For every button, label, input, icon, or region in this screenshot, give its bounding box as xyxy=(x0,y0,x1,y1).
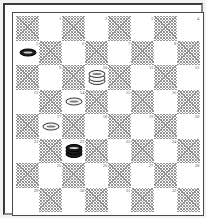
checker-piece-dark-man-sq5[interactable] xyxy=(19,47,36,58)
checker-piece-light-man-sq17[interactable] xyxy=(42,121,59,132)
board-square-30[interactable]: 30 xyxy=(62,188,85,213)
board-square-16[interactable]: 16 xyxy=(154,90,177,115)
board-square-29[interactable]: 29 xyxy=(16,188,39,213)
square-number-label: 31 xyxy=(126,188,130,194)
board-square-blank-r6c6[interactable] xyxy=(131,139,154,164)
board-square-7[interactable]: 7 xyxy=(108,41,131,66)
board-square-blank-r8c2[interactable] xyxy=(39,188,62,213)
square-number-label: 9 xyxy=(59,65,61,71)
square-number-label: 21 xyxy=(34,139,38,145)
square-number-label: 29 xyxy=(34,188,38,194)
board-square-blank-r7c1[interactable] xyxy=(16,163,39,188)
board-square-1[interactable]: 1 xyxy=(39,16,62,41)
square-number-label: 2 xyxy=(105,16,107,22)
checker-disc-icon xyxy=(19,49,36,57)
board-square-blank-r4c2[interactable] xyxy=(39,90,62,115)
board-square-26[interactable]: 26 xyxy=(85,163,108,188)
checkers-diagram-root: 1234567891011121314151617181920212223242… xyxy=(0,0,206,218)
square-number-label: 20 xyxy=(195,114,199,120)
board-square-31[interactable]: 31 xyxy=(108,188,131,213)
square-number-label: 1 xyxy=(59,16,61,22)
square-number-label: 7 xyxy=(128,41,130,47)
board-square-11[interactable]: 11 xyxy=(131,65,154,90)
board-square-blank-r1c7[interactable] xyxy=(154,16,177,41)
board-square-blank-r5c1[interactable] xyxy=(16,114,39,139)
board-square-13[interactable]: 13 xyxy=(16,90,39,115)
board-square-23[interactable]: 23 xyxy=(108,139,131,164)
checker-disc-icon xyxy=(88,70,105,78)
board-square-blank-r6c8[interactable] xyxy=(177,139,200,164)
board-square-20[interactable]: 20 xyxy=(177,114,200,139)
square-number-label: 5 xyxy=(36,41,38,47)
board-square-blank-r4c8[interactable] xyxy=(177,90,200,115)
square-number-label: 25 xyxy=(57,163,61,169)
checker-disc-icon xyxy=(65,144,82,152)
board-square-blank-r4c6[interactable] xyxy=(131,90,154,115)
board-square-blank-r7c7[interactable] xyxy=(154,163,177,188)
board-square-blank-r6c4[interactable] xyxy=(85,139,108,164)
square-number-label: 13 xyxy=(34,90,38,96)
board-square-18[interactable]: 18 xyxy=(85,114,108,139)
checkers-board-grid[interactable]: 1234567891011121314151617181920212223242… xyxy=(16,16,200,212)
board-square-blank-r8c8[interactable] xyxy=(177,188,200,213)
board-square-25[interactable]: 25 xyxy=(39,163,62,188)
board-square-19[interactable]: 19 xyxy=(131,114,154,139)
board-square-blank-r7c3[interactable] xyxy=(62,163,85,188)
board-square-blank-r2c6[interactable] xyxy=(131,41,154,66)
checker-piece-dark-king-sq22[interactable] xyxy=(65,144,82,158)
board-square-blank-r2c4[interactable] xyxy=(85,41,108,66)
board-square-2[interactable]: 2 xyxy=(85,16,108,41)
board-square-9[interactable]: 9 xyxy=(39,65,62,90)
checker-piece-light-man-sq14[interactable] xyxy=(65,96,82,107)
board-square-blank-r4c4[interactable] xyxy=(85,90,108,115)
board-square-32[interactable]: 32 xyxy=(154,188,177,213)
board-square-blank-r3c3[interactable] xyxy=(62,65,85,90)
board-square-blank-r3c1[interactable] xyxy=(16,65,39,90)
board-square-blank-r3c5[interactable] xyxy=(108,65,131,90)
board-square-27[interactable]: 27 xyxy=(131,163,154,188)
board-square-blank-r2c2[interactable] xyxy=(39,41,62,66)
board-square-blank-r6c2[interactable] xyxy=(39,139,62,164)
board-square-5[interactable]: 5 xyxy=(16,41,39,66)
board-square-blank-r8c4[interactable] xyxy=(85,188,108,213)
board-square-22[interactable]: 22 xyxy=(62,139,85,164)
checker-piece-light-king-sq10[interactable] xyxy=(88,70,105,84)
board-square-blank-r2c8[interactable] xyxy=(177,41,200,66)
square-number-label: 11 xyxy=(149,65,153,71)
board-square-10[interactable]: 10 xyxy=(85,65,108,90)
square-number-label: 27 xyxy=(149,163,153,169)
square-number-label: 8 xyxy=(174,41,176,47)
square-number-label: 6 xyxy=(82,41,84,47)
checker-disc-icon xyxy=(65,98,82,106)
board-square-blank-r1c1[interactable] xyxy=(16,16,39,41)
square-number-label: 15 xyxy=(126,90,130,96)
board-square-blank-r5c7[interactable] xyxy=(154,114,177,139)
board-square-blank-r5c3[interactable] xyxy=(62,114,85,139)
board-square-3[interactable]: 3 xyxy=(131,16,154,41)
board-square-8[interactable]: 8 xyxy=(154,41,177,66)
board-square-17[interactable]: 17 xyxy=(39,114,62,139)
board-square-21[interactable]: 21 xyxy=(16,139,39,164)
board-square-blank-r5c5[interactable] xyxy=(108,114,131,139)
board-square-blank-r1c3[interactable] xyxy=(62,16,85,41)
board-square-blank-r3c7[interactable] xyxy=(154,65,177,90)
board-square-6[interactable]: 6 xyxy=(62,41,85,66)
board-square-12[interactable]: 12 xyxy=(177,65,200,90)
board-square-15[interactable]: 15 xyxy=(108,90,131,115)
board-square-blank-r7c5[interactable] xyxy=(108,163,131,188)
square-number-label: 19 xyxy=(149,114,153,120)
square-number-label: 32 xyxy=(172,188,176,194)
board-square-4[interactable]: 4 xyxy=(177,16,200,41)
square-number-label: 3 xyxy=(151,16,153,22)
square-number-label: 18 xyxy=(103,114,107,120)
square-number-label: 16 xyxy=(172,90,176,96)
checker-disc-icon xyxy=(42,122,59,130)
board-square-24[interactable]: 24 xyxy=(154,139,177,164)
square-number-label: 4 xyxy=(197,16,199,22)
board-square-28[interactable]: 28 xyxy=(177,163,200,188)
board-square-blank-r1c5[interactable] xyxy=(108,16,131,41)
square-number-label: 24 xyxy=(172,139,176,145)
board-square-blank-r8c6[interactable] xyxy=(131,188,154,213)
square-number-label: 28 xyxy=(195,163,199,169)
board-square-14[interactable]: 14 xyxy=(62,90,85,115)
